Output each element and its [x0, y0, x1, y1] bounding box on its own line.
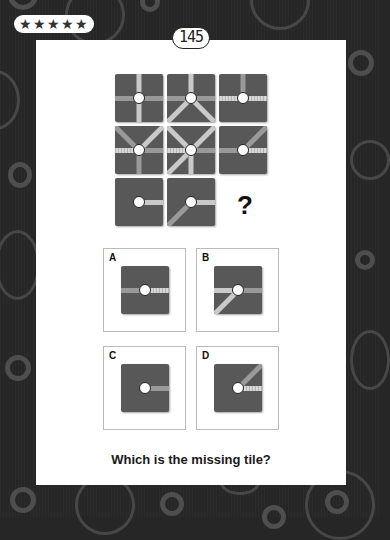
grid-tile-r3c2 — [167, 178, 215, 226]
answer-label: A — [109, 252, 116, 263]
grid-tile-r1c3 — [219, 74, 267, 122]
answer-option-a[interactable]: A — [103, 248, 186, 332]
center-dot-icon — [232, 284, 244, 296]
answer-tile-d — [214, 364, 262, 412]
answer-label: B — [202, 252, 209, 263]
swirl-decoration — [160, 492, 184, 516]
grid-tile-r2c1 — [115, 126, 163, 174]
answer-tile-b — [214, 266, 262, 314]
answer-option-c[interactable]: C — [103, 346, 186, 430]
question-prompt: Which is the missing tile? — [36, 452, 346, 467]
swirl-decoration — [350, 330, 390, 390]
center-dot-icon — [185, 196, 197, 208]
center-dot-icon — [139, 382, 151, 394]
answer-tile-c — [121, 364, 169, 412]
center-dot-icon — [133, 92, 145, 104]
center-dot-icon — [139, 284, 151, 296]
center-dot-icon — [185, 144, 197, 156]
page-number: 145 — [172, 27, 210, 49]
swirl-decoration — [8, 162, 32, 188]
swirl-decoration — [348, 50, 374, 76]
answer-option-b[interactable]: B — [196, 248, 279, 332]
center-dot-icon — [185, 92, 197, 104]
grid-tile-r2c2 — [167, 126, 215, 174]
answer-label: C — [109, 350, 116, 361]
swirl-decoration — [325, 490, 349, 514]
grid-tile-r1c2 — [167, 74, 215, 122]
answer-label: D — [202, 350, 209, 361]
center-dot-icon — [232, 382, 244, 394]
grid-tile-r2c3 — [219, 126, 267, 174]
difficulty-rating: ★★★★★ — [14, 15, 94, 33]
swirl-decoration — [350, 140, 390, 180]
center-dot-icon — [237, 92, 249, 104]
swirl-decoration — [355, 250, 375, 270]
swirl-decoration — [5, 355, 31, 381]
center-dot-icon — [133, 196, 145, 208]
grid-tile-r3c1 — [115, 178, 163, 226]
answer-tile-a — [121, 266, 169, 314]
swirl-decoration — [262, 505, 286, 529]
answer-option-d[interactable]: D — [196, 346, 279, 430]
grid-tile-r1c1 — [115, 74, 163, 122]
center-dot-icon — [237, 144, 249, 156]
center-dot-icon — [133, 144, 145, 156]
swirl-decoration — [10, 487, 36, 513]
missing-tile-marker: ? — [230, 190, 260, 221]
